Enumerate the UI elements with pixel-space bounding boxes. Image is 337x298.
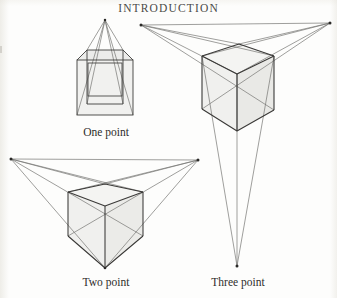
figure-one-point [77, 19, 133, 115]
three-point-vanishing-point-bottom [236, 265, 239, 268]
caption-two-point: Two point [56, 276, 156, 288]
three-point-vanishing-point-left [140, 24, 143, 27]
caption-one-point: One point [56, 126, 156, 138]
figure-two-point [10, 158, 200, 270]
two-point-vanishing-point-right [197, 159, 200, 162]
perspective-illustrations [0, 0, 337, 298]
three-point-vanishing-point-right [329, 22, 332, 25]
caption-three-point: Three point [182, 276, 294, 288]
book-page: INTRODUCTION [0, 0, 337, 298]
two-point-bottom-vertex [104, 267, 107, 270]
one-point-vanishing-point [104, 19, 107, 22]
two-point-vanishing-point-left [10, 158, 13, 161]
figure-three-point [140, 22, 332, 268]
